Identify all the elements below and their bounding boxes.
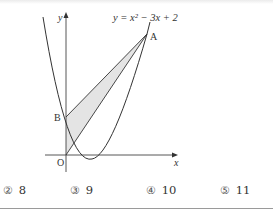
parabola-figure: y x O B A y = x² − 3x + 2	[0, 0, 273, 182]
choice-number: ②	[3, 184, 13, 197]
choice-value: 10	[162, 183, 177, 197]
choice-3[interactable]: ③ 9	[70, 183, 93, 197]
choice-2[interactable]: ② 8	[3, 183, 26, 197]
choice-value: 11	[236, 183, 251, 197]
choice-number: ③	[70, 184, 80, 197]
segment-oa	[66, 34, 147, 155]
choice-5[interactable]: ⑤ 11	[220, 183, 250, 197]
equation-label: y = x² − 3x + 2	[112, 12, 178, 23]
choice-number: ④	[146, 184, 156, 197]
choice-value: 9	[86, 183, 93, 197]
y-axis-label: y	[57, 12, 63, 23]
x-axis-label: x	[173, 157, 179, 168]
point-b-label: B	[54, 112, 61, 123]
point-a-label: A	[150, 31, 158, 42]
choice-value: 8	[19, 183, 26, 197]
point-o-label: O	[57, 157, 64, 168]
y-axis-arrow-icon	[64, 12, 69, 18]
choice-number: ⑤	[220, 184, 230, 197]
choice-4[interactable]: ④ 10	[146, 183, 176, 197]
bottom-divider	[0, 208, 273, 209]
answer-choices: ② 8 ③ 9 ④ 10 ⑤ 11	[0, 183, 273, 201]
